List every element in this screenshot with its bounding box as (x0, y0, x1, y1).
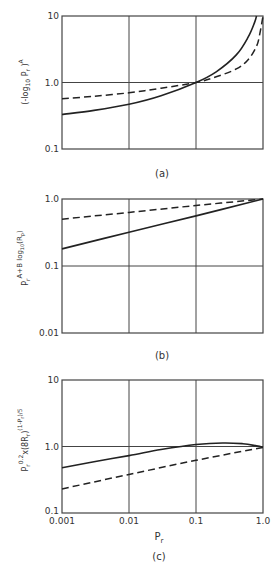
figure: 10 1.0 0.1 (-log10 Pr )A (a) 1.0 0.1 0.0… (0, 0, 278, 572)
panel-a-caption: (a) (155, 168, 169, 179)
panel-a-ytick-1: 1.0 (45, 78, 60, 88)
panel-b-grid (62, 199, 263, 333)
panel-c-ytick-1: 1.0 (45, 442, 60, 452)
panel-b-ylabel: PrA+B log10(Rp) (16, 230, 31, 286)
panel-b-caption: (b) (155, 350, 169, 361)
panel-c-grid (62, 380, 263, 513)
panel-c-ytick-0.1: 0.1 (45, 506, 59, 516)
panel-a-ylabel: (-log10 Pr )A (17, 58, 31, 104)
panel-c-xtick-0.01: 0.01 (119, 516, 139, 526)
panel-c-dashed-curve (62, 447, 263, 489)
panel-c-xtick-0.1: 0.1 (189, 516, 203, 526)
panel-b-solid-curve (62, 199, 263, 249)
panel-a-ytick-10: 10 (48, 11, 60, 21)
panel-c-xtick-1: 1.0 (256, 516, 271, 526)
panel-b-ytick-0.1: 0.1 (45, 261, 59, 271)
panel-b-ytick-1: 1.0 (45, 194, 60, 204)
panel-c-xlabel: Pr (155, 531, 164, 545)
panel-a: 10 1.0 0.1 (-log10 Pr )A (a) (17, 11, 263, 179)
panel-b: 1.0 0.1 0.01 PrA+B log10(Rp) (b) (16, 194, 263, 361)
panel-c-ylabel: Pr0.2x(8Rr)(1-Pr)/5 (16, 408, 31, 471)
panel-a-ytick-0.1: 0.1 (45, 144, 59, 154)
panel-a-solid-curve (62, 16, 257, 115)
panel-b-dashed-curve (62, 199, 263, 219)
panel-c-caption: (c) (152, 551, 165, 562)
panel-c-ytick-10: 10 (48, 375, 60, 385)
panel-c-xtick-0.001: 0.001 (49, 516, 75, 526)
panel-b-ytick-0.01: 0.01 (39, 328, 59, 338)
panel-c: 10 1.0 0.1 0.001 0.01 0.1 1.0 Pr Pr0.2x(… (16, 375, 270, 562)
panel-a-grid (62, 16, 263, 149)
